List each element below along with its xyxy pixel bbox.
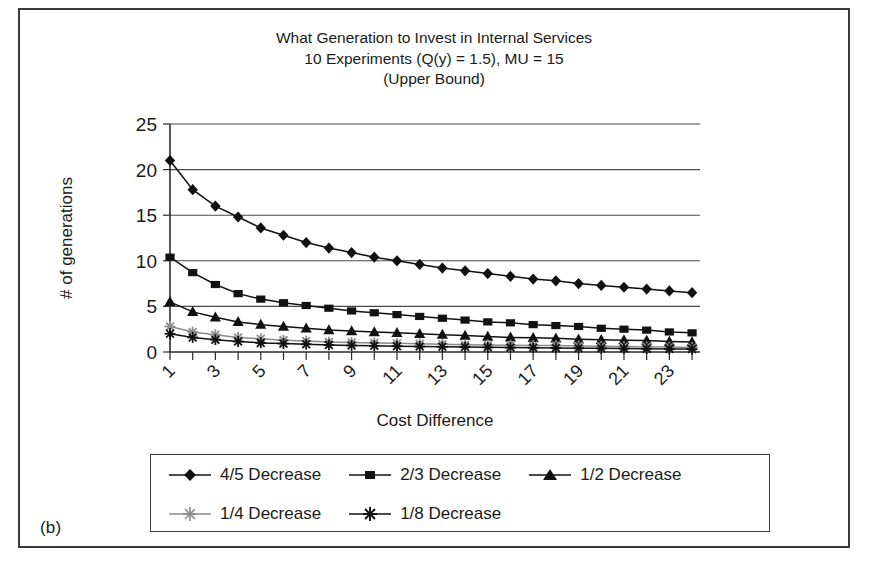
legend-item-1-4-decrease[interactable]: 1/4 Decrease <box>167 504 321 524</box>
series-line <box>170 302 692 342</box>
x-tick-label: 19 <box>559 361 587 389</box>
y-tick-label: 5 <box>146 296 157 317</box>
legend-label: 4/5 Decrease <box>220 465 321 485</box>
asterisk-marker-gray-icon <box>167 505 213 523</box>
panel-label: (b) <box>40 518 61 538</box>
x-tick-label: 9 <box>339 361 360 382</box>
legend-row-1: 4/5 Decrease 2/3 Decrease 1/2 Decrease <box>151 455 769 494</box>
series-line <box>170 160 692 292</box>
x-axis-title: Cost Difference <box>377 411 494 430</box>
series-1 <box>165 155 697 298</box>
legend-label: 1/4 Decrease <box>220 504 321 524</box>
legend-label: 1/8 Decrease <box>400 504 501 524</box>
series-line <box>170 257 692 333</box>
y-tick-label: 20 <box>136 160 157 181</box>
asterisk-marker-black-icon <box>347 505 393 523</box>
x-tick-label: 13 <box>423 361 451 389</box>
y-axis-title: # of generations <box>57 177 76 299</box>
x-tick-label: 23 <box>650 361 678 389</box>
y-tick-label: 0 <box>146 342 157 363</box>
series-5 <box>165 328 698 354</box>
x-tick-label: 15 <box>468 361 496 389</box>
series-line <box>170 326 692 347</box>
x-tick-label: 5 <box>248 361 269 382</box>
figure-panel: What Generation to Invest in Internal Se… <box>18 8 850 548</box>
y-tick-label: 25 <box>136 114 157 135</box>
legend-item-1-8-decrease[interactable]: 1/8 Decrease <box>347 504 501 524</box>
y-tick-label: 10 <box>136 251 157 272</box>
legend-item-2-3-decrease[interactable]: 2/3 Decrease <box>347 465 501 485</box>
legend-label: 2/3 Decrease <box>400 465 501 485</box>
x-tick-label: 11 <box>378 361 405 388</box>
legend-item-1-2-decrease[interactable]: 1/2 Decrease <box>527 465 681 485</box>
legend-item-4-5-decrease[interactable]: 4/5 Decrease <box>167 465 321 485</box>
square-marker-icon <box>347 466 393 484</box>
x-tick-label: 17 <box>514 361 542 389</box>
x-tick-label: 21 <box>604 361 632 389</box>
legend-label: 1/2 Decrease <box>580 465 681 485</box>
line-chart: 05101520251357911131517192123Cost Differ… <box>20 10 852 450</box>
x-tick-label: 3 <box>203 361 224 382</box>
triangle-marker-icon <box>527 466 573 484</box>
x-tick-label: 1 <box>158 361 179 382</box>
x-tick-label: 7 <box>294 361 315 382</box>
legend-row-2: 1/4 Decrease 1/8 Decrease <box>151 494 769 533</box>
series-3 <box>164 296 697 346</box>
diamond-marker-icon <box>167 466 213 484</box>
chart-legend: 4/5 Decrease 2/3 Decrease 1/2 Decrease <box>150 454 770 532</box>
y-tick-label: 15 <box>136 205 157 226</box>
